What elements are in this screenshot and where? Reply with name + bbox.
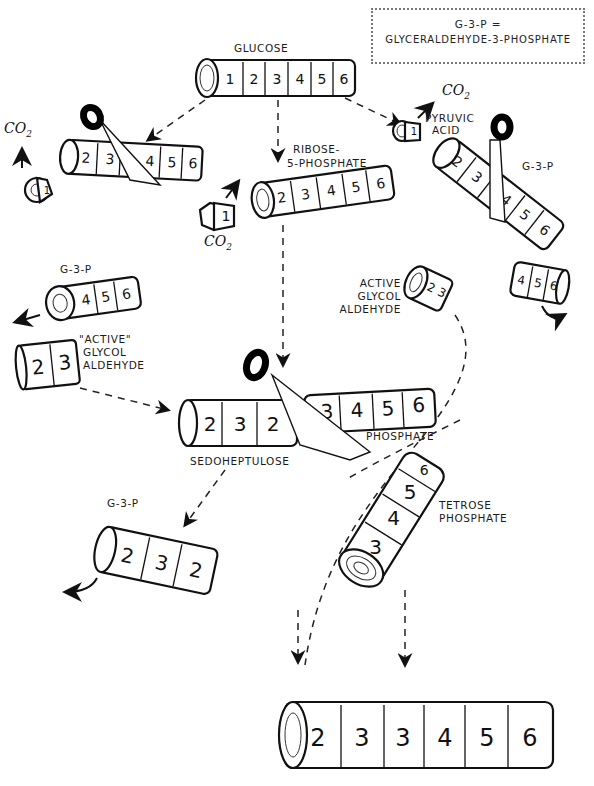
co2-mid-subscript: 2 [226, 242, 232, 252]
ribose-label-line1: RIBOSE- [293, 143, 340, 155]
tetrose-carbon-4: 4 [387, 506, 400, 530]
final-carbon-6: 6 [522, 724, 537, 752]
glucose-carbon-2: 2 [250, 71, 259, 87]
final-carbon-3: 3 [354, 724, 369, 752]
g3p-bottom-log: 2 3 2 [91, 525, 219, 595]
final-carbon-4: 4 [437, 724, 452, 752]
pyruvic-acid-label-line1: PYRUVIC [425, 112, 474, 124]
right-end-piece-log: 1 [393, 121, 420, 141]
legend-box: G-3-P = GLYCERALDEHYDE-3-PHOSPHATE [371, 8, 585, 64]
arrow-sedoheptulose-to-g3p [185, 470, 225, 525]
left-cut-carbon-5: 5 [167, 154, 177, 170]
legend-value: GLYCERALDEHYDE-3-PHOSPHATE [373, 34, 583, 45]
arrow-co2-mid [226, 182, 238, 198]
phosphate-carbon-6: 6 [412, 393, 426, 418]
phosphate-carbon-5: 5 [381, 396, 395, 421]
co2-right-text: CO [442, 82, 464, 98]
ribose-label-line2: 5-PHOSPHATE [287, 157, 367, 169]
g3p-right-label: G-3-P [522, 160, 554, 172]
tetrose-carbon-6: 6 [420, 462, 429, 478]
active-glycol-left-line3: ALDEHYDE [83, 359, 145, 371]
sedoheptulose-label: SEDOHEPTULOSE [190, 455, 289, 467]
right-end-carbon-1: 1 [411, 126, 417, 137]
ribose-cut-carbon-1: 1 [222, 208, 231, 224]
sedoheptulose-carbon-2: 2 [204, 412, 217, 436]
ribose-5-phosphate-log: 2 3 4 5 6 [249, 164, 395, 219]
tetrose-phosphate-label-line1: TETROSE [439, 499, 492, 511]
g3p-bottom-label: G-3-P [107, 497, 139, 509]
pyruvic-acid-label-line2: ACID [432, 124, 460, 136]
tetrose-phosphate-log: 3 4 5 6 [332, 448, 448, 594]
co2-right-label: CO2 [442, 82, 470, 101]
co2-left-subscript: 2 [26, 129, 32, 139]
left-cut-carbon-2: 2 [81, 149, 91, 165]
final-carbon-3b: 3 [395, 724, 410, 752]
active-glycol-right-line3: ALDEHYDE [336, 303, 401, 315]
active-left-carbon-3: 3 [57, 350, 72, 375]
active-left-carbon-2: 2 [31, 355, 46, 380]
g3p-left-label: G-3-P [60, 263, 92, 275]
glucose-carbon-1: 1 [226, 71, 235, 87]
left-end-carbon-1: 1 [44, 185, 50, 196]
g3p-right-piece-log: 4 5 6 [509, 261, 571, 304]
pentose-pathway-diagram: 1 2 3 4 5 6 2 3 4 5 6 1 [0, 0, 594, 786]
co2-left-text: CO [4, 120, 26, 136]
left-cut-carbon-4: 4 [145, 153, 155, 169]
phosphate-label: PHOSPHATE [366, 430, 434, 442]
sedoheptulose-carbon-2b: 2 [267, 412, 280, 436]
glucose-carbon-6: 6 [340, 71, 349, 87]
final-carbon-2: 2 [310, 724, 325, 752]
final-product-log: 2 3 3 4 5 6 [279, 702, 553, 768]
left-cut-carbon-3: 3 [105, 151, 115, 167]
co2-mid-label: CO2 [204, 233, 232, 252]
arrow-g3p-bottom-out [66, 578, 97, 592]
tetrose-carbon-3: 3 [369, 535, 382, 559]
active-glycol-right-line2: GLYCOL [351, 290, 401, 302]
g3p-left-piece-log: 4 5 6 [44, 275, 142, 322]
sedoheptulose-log: 2 3 2 [179, 400, 297, 446]
active-glycol-right-line1: ACTIVE [351, 277, 401, 289]
arrow-glucose-to-left [148, 100, 205, 140]
tetrose-carbon-5: 5 [404, 480, 417, 504]
arrow-active-glycol-to-sedoheptulose [80, 388, 168, 410]
active-glycol-left-line1: "ACTIVE" [79, 333, 131, 345]
glucose-carbon-4: 4 [296, 71, 305, 87]
arrow-g3p-left-out [16, 315, 40, 322]
active-glycol-aldehyde-right-log: 2 3 [400, 263, 454, 312]
active-glycol-aldehyde-left-log: 2 3 [14, 340, 80, 390]
glucose-carbon-5: 5 [318, 71, 327, 87]
co2-right-subscript: 2 [464, 91, 470, 101]
left-cut-carbon-6: 6 [188, 155, 198, 171]
arrow-g3p-right-out [542, 306, 564, 318]
active-glycol-left-line2: GLYCOL [83, 346, 126, 358]
co2-mid-text: CO [204, 233, 226, 249]
glucose-label: GLUCOSE [234, 42, 288, 54]
sedoheptulose-carbon-3: 3 [234, 412, 247, 436]
glucose-log: 1 2 3 4 5 6 [196, 59, 355, 97]
ribose-cut-piece-log: 1 [200, 203, 234, 230]
legend-key: G-3-P = [373, 18, 583, 30]
arrow-glucose-to-right [345, 98, 400, 124]
glucose-carbon-3: 3 [273, 71, 282, 87]
phosphate-carbon-4: 4 [350, 398, 364, 423]
tetrose-phosphate-label-line2: PHOSPHATE [439, 512, 507, 524]
final-carbon-5: 5 [479, 724, 494, 752]
left-end-piece-log: 1 [25, 178, 52, 202]
co2-left-label: CO2 [4, 120, 32, 139]
